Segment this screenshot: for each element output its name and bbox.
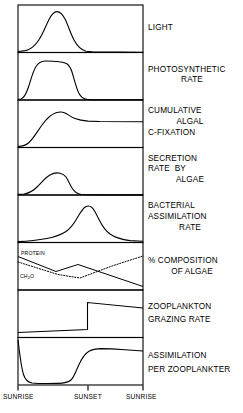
panel-label-bacterial-line3: RATE: [148, 223, 232, 233]
panel-assimilation-curve: [18, 340, 143, 384]
panel-label-secretion-line2: RATE BY: [148, 164, 232, 174]
panel-zooplankton-grazing-rate: [18, 290, 143, 338]
panel-cumulative-algal-c-fixation: [18, 100, 143, 148]
panel-label-percent-composition-line1: % COMPOSITION: [148, 256, 241, 266]
panel-zooplankton-grazing-frame: [18, 290, 143, 338]
panel-label-bacterial-line1: BACTERIAL: [148, 201, 241, 211]
panel-label-zooplankton-grazing-line2: GRAZING RATE: [148, 315, 241, 325]
panel-photosynthetic-rate-curve: [18, 61, 143, 100]
panel-photosynthetic-rate-frame: [18, 53, 143, 101]
panel-label-photosynthetic-rate-line2: RATE: [148, 75, 236, 85]
panel-label-bacterial-line2: ASSIMILATION: [148, 212, 241, 222]
x-tick-label-sunset: SUNSET: [74, 393, 102, 400]
panel-label-assimilation-line2: PER ZOOPLANKTER: [148, 365, 243, 375]
panel-light: [18, 5, 143, 53]
panel-bacterial-assimilation-rate: [18, 195, 143, 243]
panel-assimilation-per-zooplankter: [18, 338, 143, 386]
x-tick-label-sunrise-right: SUNRISE: [126, 393, 157, 400]
panel-light-frame: [18, 5, 143, 53]
ch2o-label-text: CH: [20, 273, 28, 279]
ch2o-line: [18, 256, 143, 278]
protein-line: [18, 257, 143, 287]
panel-photosynthetic-rate: [18, 53, 143, 101]
panel-bacterial-frame: [18, 195, 143, 243]
panel-label-assimilation-line1: ASSIMILATION: [148, 351, 241, 361]
panel-label-photosynthetic-rate-line1: PHOTOSYNTHETIC: [148, 65, 241, 75]
figure-panel-stack: LIGHT PHOTOSYNTHETIC RATE CUMULATIVE ALG…: [0, 0, 243, 413]
panel-cumulative-curve: [18, 112, 143, 147]
ch2o-curve-label: CH2O: [20, 273, 34, 279]
panel-label-secretion-line1: SECRETION: [148, 154, 241, 164]
panel-label-cumulative-line1: CUMULATIVE: [148, 106, 241, 116]
x-axis-ticks: [18, 386, 143, 391]
ch2o-label-tail: O: [30, 273, 34, 279]
panel-bacterial-curve: [18, 206, 143, 242]
panel-light-curve: [18, 12, 143, 53]
panel-zooplankton-grazing-curve: [18, 303, 143, 333]
panel-label-percent-composition-line2: OF ALGAE: [148, 267, 236, 277]
panel-label-zooplankton-grazing-line1: ZOOPLANKTON: [148, 302, 241, 312]
panel-label-light: LIGHT: [148, 23, 241, 33]
panel-cumulative-frame: [18, 100, 143, 148]
x-tick-label-sunrise-left: SUNRISE: [3, 393, 34, 400]
panel-secretion-rate-by-algae: [18, 148, 143, 196]
panel-label-cumulative-line2: ALGAL: [148, 117, 232, 127]
ch2o-label-sub: 2: [28, 275, 30, 280]
panel-label-cumulative-line3: C-FIXATION: [148, 128, 236, 138]
protein-curve-label: PROTEIN: [21, 250, 45, 256]
panel-secretion-curve: [18, 173, 143, 195]
panel-label-secretion-line3: ALGAE: [148, 175, 232, 185]
